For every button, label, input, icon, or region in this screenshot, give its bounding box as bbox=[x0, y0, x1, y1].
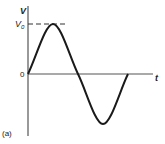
sine-wave-figure: V V0 0 t (a) bbox=[0, 0, 165, 144]
origin-label: 0 bbox=[20, 70, 25, 79]
panel-label: (a) bbox=[2, 129, 12, 138]
y-axis-label: V bbox=[20, 6, 27, 16]
peak-value-label: V0 bbox=[15, 19, 25, 30]
x-axis-label: t bbox=[155, 73, 159, 83]
